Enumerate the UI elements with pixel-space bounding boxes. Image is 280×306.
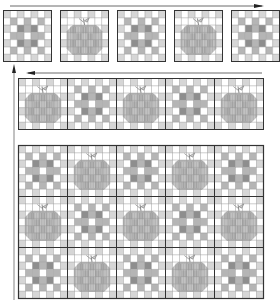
block-apple-step2-3 bbox=[117, 79, 166, 130]
block-checker-r3c5 bbox=[215, 248, 264, 299]
block-apple-step2-1 bbox=[19, 79, 68, 130]
block-apple-step2-5 bbox=[215, 79, 264, 130]
block-checker-r3c1 bbox=[19, 248, 68, 299]
block-apple-step1-2 bbox=[61, 11, 109, 62]
block-checker-r2c2 bbox=[68, 197, 117, 248]
arrow-right-icon bbox=[254, 4, 264, 8]
block-apple-r2c1 bbox=[19, 197, 68, 248]
block-checker-r2c4 bbox=[166, 197, 215, 248]
block-apple-r1c2 bbox=[68, 146, 117, 197]
block-checker-step1-5 bbox=[232, 11, 280, 62]
block-checker-step2-2 bbox=[68, 79, 117, 130]
block-apple-r3c4 bbox=[166, 248, 215, 299]
block-apple-step1-4 bbox=[175, 11, 223, 62]
block-checker-step1-3 bbox=[118, 11, 166, 62]
block-checker-r1c3 bbox=[117, 146, 166, 197]
block-checker-r3c3 bbox=[117, 248, 166, 299]
diagram-canvas bbox=[0, 0, 280, 306]
quilt-assembly-diagram bbox=[0, 0, 280, 306]
arrow-up-icon bbox=[12, 64, 16, 73]
block-apple-r3c2 bbox=[68, 248, 117, 299]
block-checker-r1c5 bbox=[215, 146, 264, 197]
block-apple-r1c4 bbox=[166, 146, 215, 197]
arrow-left-icon bbox=[26, 71, 35, 75]
block-checker-step2-4 bbox=[166, 79, 215, 130]
block-checker-r1c1 bbox=[19, 146, 68, 197]
block-checker-step1-1 bbox=[4, 11, 52, 62]
block-apple-r2c5 bbox=[215, 197, 264, 248]
block-apple-r2c3 bbox=[117, 197, 166, 248]
